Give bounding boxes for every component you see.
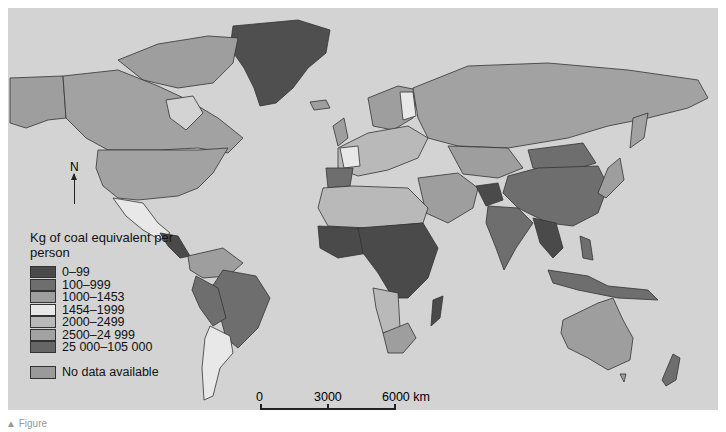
legend-swatch	[30, 266, 56, 278]
legend-label: 2500–24 999	[62, 329, 135, 341]
scale-label-3000: 3000	[314, 390, 342, 404]
argentina-chile	[202, 326, 233, 400]
legend-no-data: No data available	[30, 366, 190, 379]
legend-swatch	[30, 341, 56, 353]
scale-label-0: 0	[256, 390, 263, 404]
legend-swatch	[30, 304, 56, 316]
legend-title: Kg of coal equivalent per person	[30, 230, 190, 260]
middle-east	[418, 173, 478, 223]
legend-label: 1454–1999	[62, 304, 125, 316]
legend-item: 0–99	[30, 266, 190, 279]
world-map: Kg of coal equivalent per person 0–99 10…	[8, 8, 718, 410]
australia	[561, 298, 633, 370]
figure-caption: ▲ Figure	[6, 418, 47, 429]
alaska	[10, 76, 66, 128]
legend-item: 1454–1999	[30, 304, 190, 317]
iberia	[326, 168, 353, 188]
legend-swatch	[30, 291, 56, 303]
scale-bar: 0 3000 6000 km	[260, 390, 450, 410]
legend-list: 0–99 100–999 1000–1453 1454–1999 2000–24…	[30, 266, 190, 354]
scale-tick	[394, 404, 396, 409]
legend-item: 2000–2499	[30, 316, 190, 329]
legend-swatch	[30, 329, 56, 341]
north-africa	[318, 186, 428, 228]
scale-tick	[260, 404, 262, 409]
usa	[96, 148, 228, 200]
philippines	[580, 236, 593, 260]
arrow-up-icon	[74, 174, 75, 204]
legend-item: 100–999	[30, 279, 190, 292]
legend-item: 2500–24 999	[30, 329, 190, 342]
russia	[413, 63, 708, 148]
legend-label: 100–999	[62, 279, 111, 291]
legend-item: 1000–1453	[30, 291, 190, 304]
north-label: N	[70, 161, 79, 173]
legend-swatch	[30, 316, 56, 328]
central-east-africa	[358, 223, 438, 298]
uk	[333, 118, 348, 146]
greenland	[230, 20, 330, 106]
legend-label: 1000–1453	[62, 291, 125, 303]
india	[486, 206, 533, 270]
legend: Kg of coal equivalent per person 0–99 10…	[30, 230, 190, 379]
france	[340, 146, 360, 168]
legend-label: 2000–2499	[62, 316, 125, 328]
angola-namibia	[373, 288, 400, 333]
legend-item: 25 000–105 000	[30, 341, 190, 354]
legend-swatch	[30, 366, 56, 379]
legend-swatch	[30, 279, 56, 291]
kazakhstan	[448, 146, 523, 178]
legend-label: 25 000–105 000	[62, 341, 152, 353]
madagascar	[431, 296, 443, 326]
scale-label-6000: 6000 km	[382, 390, 430, 404]
finland	[400, 92, 416, 120]
scale-tick	[327, 404, 329, 409]
legend-label: 0–99	[62, 266, 90, 278]
new-zealand	[662, 354, 680, 386]
legend-label: No data available	[62, 366, 159, 378]
indonesia	[548, 270, 658, 300]
north-arrow: N	[70, 161, 79, 204]
afghanistan	[476, 183, 503, 206]
